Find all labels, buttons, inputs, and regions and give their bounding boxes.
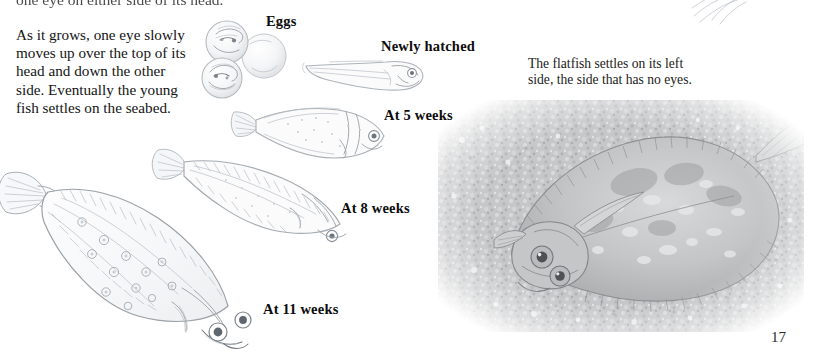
book-page: one eye on either side of its head. As i… [0, 0, 813, 358]
photo-adult-flatfish-on-seabed [438, 100, 804, 332]
left-paragraph: As it grows, one eye slowly moves up ove… [16, 26, 196, 117]
page-number: 17 [771, 329, 786, 346]
stage-label-newly-hatched: Newly hatched [381, 38, 475, 55]
stage-label-week-11: At 11 weeks [263, 301, 339, 318]
illustration-newly-hatched [300, 52, 440, 98]
stage-label-eggs: Eggs [266, 13, 297, 30]
right-caption: The flatfish settles on its left side, t… [528, 56, 708, 88]
stage-label-week-8: At 8 weeks [341, 200, 410, 217]
clipped-top-text: one eye on either side of its head. [16, 0, 436, 9]
illustration-week-11 [0, 160, 260, 358]
stray-pencil-marks [690, 0, 810, 60]
